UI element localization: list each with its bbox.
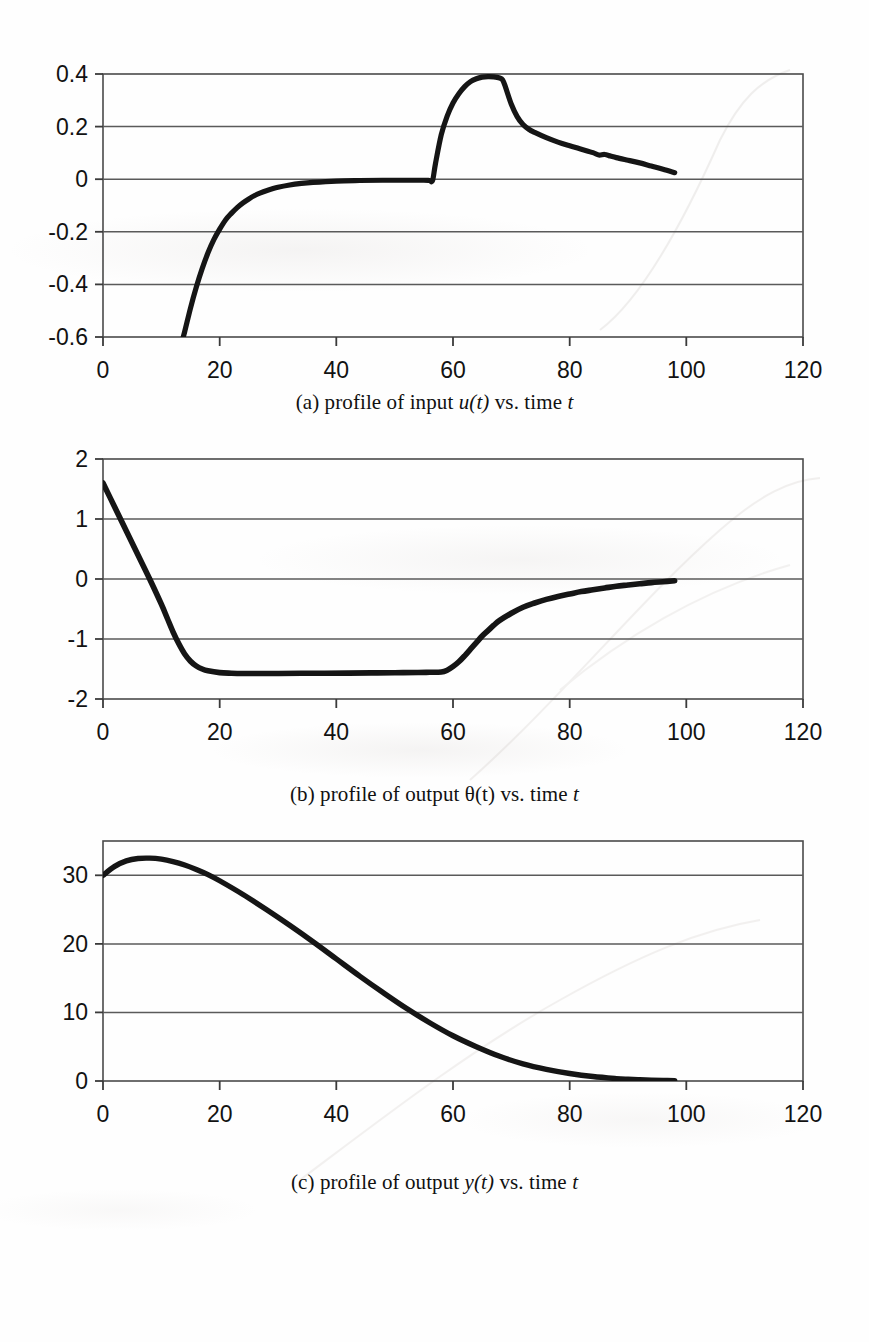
caption-suffix: vs. time: [494, 1170, 572, 1194]
y-tick-label: -0.4: [48, 271, 88, 297]
chart-b-y-tick-labels: 2 1 0 -1 -2: [68, 446, 88, 712]
x-tick-label: 120: [784, 1101, 822, 1127]
x-tick-label: 80: [557, 1101, 583, 1127]
chart-b-x-tick-labels: 0 20 40 60 80 100 120: [97, 719, 823, 745]
y-tick-label: -1: [68, 626, 88, 652]
y-tick-label: 20: [62, 931, 88, 957]
caption-prefix: (b) profile of output: [290, 782, 465, 806]
chart-a-series-u: [182, 77, 675, 343]
x-tick-label: 60: [440, 719, 466, 745]
y-tick-label: 10: [62, 999, 88, 1025]
x-tick-label: 100: [667, 719, 705, 745]
chart-c-y-tick-labels: 30 20 10 0: [62, 862, 88, 1094]
y-tick-label: -0.2: [48, 219, 88, 245]
chart-b-plot: 2 1 0 -1 -2 0 20 40 60 80 100 120: [0, 437, 869, 782]
figure-three-profiles: 0.4 0.2 0 -0.2 -0.4 -0.6 0 20 40 60 80 1…: [0, 0, 869, 1195]
caption-variable: t: [572, 1170, 578, 1194]
caption-suffix: vs. time: [489, 390, 567, 414]
caption-prefix: (c) profile of output: [291, 1170, 465, 1194]
chart-c-axes: [95, 841, 803, 1090]
x-tick-label: 0: [97, 719, 110, 745]
x-tick-label: 80: [557, 357, 583, 383]
y-tick-label: 0: [75, 166, 88, 192]
x-tick-label: 20: [207, 719, 233, 745]
chart-c-plot: 30 20 10 0 0 20 40 60 80 100 120: [0, 825, 869, 1170]
caption-symbol: u(t): [459, 390, 490, 414]
x-tick-label: 100: [667, 357, 705, 383]
x-tick-label: 60: [440, 357, 466, 383]
x-tick-label: 120: [784, 719, 822, 745]
chart-a-y-tick-labels: 0.4 0.2 0 -0.2 -0.4 -0.6: [48, 61, 88, 350]
y-tick-label: -2: [68, 686, 88, 712]
x-tick-label: 40: [324, 719, 350, 745]
x-tick-label: 80: [557, 719, 583, 745]
x-tick-label: 0: [97, 357, 110, 383]
chart-a-plot: 0.4 0.2 0 -0.2 -0.4 -0.6 0 20 40 60 80 1…: [0, 0, 869, 390]
chart-c-caption: (c) profile of output y(t) vs. time t: [0, 1170, 869, 1195]
caption-variable: t: [567, 390, 573, 414]
chart-a-caption: (a) profile of input u(t) vs. time t: [0, 390, 869, 415]
caption-symbol: y(t): [465, 1170, 495, 1194]
chart-a-x-tick-labels: 0 20 40 60 80 100 120: [97, 357, 823, 383]
y-tick-label: 1: [75, 506, 88, 532]
caption-variable: t: [573, 782, 579, 806]
y-tick-label: 0: [75, 1068, 88, 1094]
x-tick-label: 120: [784, 357, 822, 383]
chart-c-series-y: [103, 858, 675, 1081]
y-tick-label: 2: [75, 446, 88, 472]
x-tick-label: 40: [324, 357, 350, 383]
x-tick-label: 20: [207, 357, 233, 383]
y-tick-label: 0.2: [56, 114, 88, 140]
x-tick-label: 40: [324, 1101, 350, 1127]
chart-b-caption: (b) profile of output θ(t) vs. time t: [0, 782, 869, 807]
x-tick-label: 100: [667, 1101, 705, 1127]
caption-prefix: (a) profile of input: [296, 390, 459, 414]
x-tick-label: 0: [97, 1101, 110, 1127]
chart-c-x-tick-labels: 0 20 40 60 80 100 120: [97, 1101, 823, 1127]
y-tick-label: 0.4: [56, 61, 88, 87]
x-tick-label: 20: [207, 1101, 233, 1127]
y-tick-label: -0.6: [48, 324, 88, 350]
caption-suffix: vs. time: [495, 782, 573, 806]
y-tick-label: 0: [75, 566, 88, 592]
chart-b-block: 2 1 0 -1 -2 0 20 40 60 80 100 120 (b) pr: [0, 437, 869, 807]
caption-symbol: θ(t): [465, 782, 495, 806]
x-tick-label: 60: [440, 1101, 466, 1127]
chart-a-block: 0.4 0.2 0 -0.2 -0.4 -0.6 0 20 40 60 80 1…: [0, 0, 869, 415]
chart-c-block: 30 20 10 0 0 20 40 60 80 100 120 (c) pro…: [0, 825, 869, 1195]
y-tick-label: 30: [62, 862, 88, 888]
